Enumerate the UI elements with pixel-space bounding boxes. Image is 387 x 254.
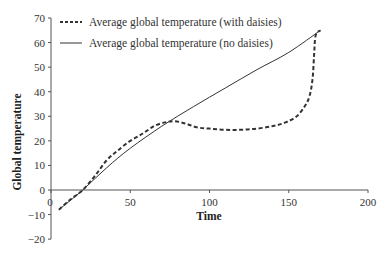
- x-tick-label: 200: [360, 196, 377, 208]
- legend-label-no-daisies: Average global temperature (no daisies): [89, 37, 273, 50]
- y-tick-label: 0: [40, 184, 46, 196]
- y-tick-label: 10: [34, 159, 46, 171]
- x-tick-label: 0: [47, 196, 53, 208]
- x-tick-label: 50: [125, 196, 137, 208]
- y-tick-label: 20: [34, 135, 46, 147]
- legend-label-with-daisies: Average global temperature (with daisies…: [89, 16, 282, 29]
- y-tick-label: 30: [34, 110, 46, 122]
- y-axis-ticks: −20−10010203040506070: [28, 12, 51, 245]
- x-tick-label: 100: [201, 196, 218, 208]
- y-tick-label: 50: [34, 61, 46, 73]
- y-tick-label: 40: [34, 86, 46, 98]
- x-axis-ticks: 050100150200: [47, 190, 377, 208]
- y-axis-title: Global temperature: [11, 93, 24, 190]
- y-tick-label: 70: [34, 12, 46, 24]
- y-tick-label: 60: [34, 37, 46, 49]
- x-tick-label: 150: [281, 196, 298, 208]
- y-tick-label: −10: [28, 209, 46, 221]
- legend: Average global temperature (with daisies…: [60, 16, 282, 50]
- line-no-daisies: [59, 30, 321, 209]
- x-axis-title: Time: [196, 210, 221, 222]
- y-tick-label: −20: [28, 233, 46, 245]
- chart: −20−10010203040506070 050100150200 Avera…: [0, 0, 387, 254]
